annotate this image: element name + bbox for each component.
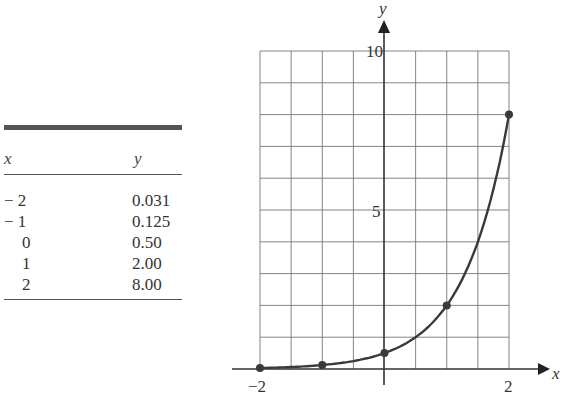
data-point [443, 301, 451, 309]
x-tick-2: 2 [504, 377, 513, 396]
data-point [381, 349, 389, 357]
y-axis-arrow-icon [378, 20, 390, 33]
exponential-chart: x y −2 2 10 5 [0, 0, 572, 420]
x-axis-arrow-icon [538, 363, 550, 375]
y-axis-label: y [377, 0, 387, 18]
y-tick-5: 5 [372, 202, 381, 221]
data-point [256, 364, 264, 372]
x-tick-neg2: −2 [248, 377, 266, 396]
y-tick-10: 10 [366, 42, 383, 61]
data-point [318, 361, 326, 369]
x-axis-label: x [551, 364, 560, 383]
data-point [505, 111, 513, 119]
